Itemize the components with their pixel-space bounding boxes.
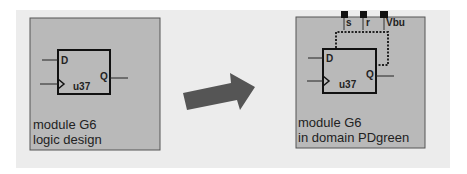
right-arrow-icon <box>183 73 255 110</box>
left-caption-line2: logic design <box>33 132 102 147</box>
left-instance-label: u37 <box>73 81 90 92</box>
left-caption-line1: module G6 <box>33 117 97 132</box>
left-d-label: D <box>61 55 68 66</box>
pin-r-label: r <box>366 17 370 28</box>
left-q-label: Q <box>100 71 108 82</box>
pin-vbu-label: Vbu <box>386 17 405 28</box>
right-caption-line2: in domain PDgreen <box>298 130 409 145</box>
pin-s-label: s <box>346 17 352 28</box>
right-q-label: Q <box>366 69 374 80</box>
right-caption-line1: module G6 <box>298 115 362 130</box>
right-instance-label: u37 <box>339 79 356 90</box>
right-d-label: D <box>326 53 333 64</box>
